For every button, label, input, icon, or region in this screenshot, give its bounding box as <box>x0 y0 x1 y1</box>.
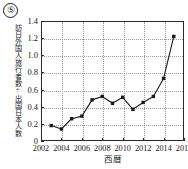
x-axis-tick-mark <box>61 138 62 141</box>
gridline-vertical <box>62 22 63 140</box>
y-axis-tick-mark <box>41 38 44 39</box>
y-axis-tick-mark <box>41 107 44 108</box>
y-axis-tick-mark <box>41 124 44 125</box>
y-axis-tick-mark <box>41 55 44 56</box>
x-axis-tick-label: 2016 <box>168 144 188 153</box>
x-axis-tick-mark <box>184 138 185 141</box>
y-axis-tick-label: 1.2 <box>16 34 38 43</box>
plot-area <box>41 21 184 141</box>
y-axis-tick-label: 0.2 <box>16 120 38 129</box>
x-axis-tick-mark <box>164 138 165 141</box>
x-axis-tick-mark <box>82 138 83 141</box>
y-axis-tick-mark <box>41 72 44 73</box>
y-axis-tick-label: 1.4 <box>16 17 38 26</box>
x-axis-title: 西暦 <box>41 155 184 164</box>
figure-number-badge: ⑤ <box>3 3 18 18</box>
y-axis-tick-mark <box>41 21 44 22</box>
y-axis-tick-label: 0.6 <box>16 86 38 95</box>
gridline-vertical <box>165 22 166 140</box>
gridline-vertical <box>144 22 145 140</box>
gridline-vertical <box>124 22 125 140</box>
x-axis-tick-mark <box>41 138 42 141</box>
chart-figure: ⑤ 訪日外国人旅行者数÷出国日本人数 00.20.40.60.81.01.21.… <box>0 0 188 169</box>
y-axis-tick-label: 0.8 <box>16 68 38 77</box>
y-axis-tick-mark <box>41 90 44 91</box>
x-axis-tick-mark <box>123 138 124 141</box>
gridline-vertical <box>103 22 104 140</box>
x-axis-tick-mark <box>102 138 103 141</box>
y-axis-tick-label: 0.4 <box>16 103 38 112</box>
y-axis-tick-mark <box>41 141 44 142</box>
x-axis-tick-mark <box>143 138 144 141</box>
gridline-vertical <box>83 22 84 140</box>
y-axis-tick-label: 1.0 <box>16 51 38 60</box>
